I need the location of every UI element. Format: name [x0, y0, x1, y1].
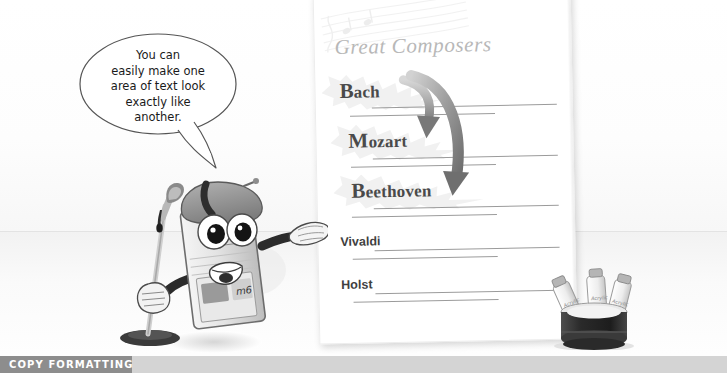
caption-label: COPY FORMATTING	[0, 359, 134, 370]
bubble-line: You can	[92, 48, 224, 64]
mascot-shadow	[166, 331, 262, 353]
rule-line	[351, 164, 496, 168]
mascot-figure-icon: m6	[118, 166, 328, 356]
pointing-hand-icon	[289, 222, 328, 244]
document-title: Great Composers	[334, 32, 491, 60]
rule-line	[375, 290, 560, 295]
plain-name-holst: Holst	[341, 277, 373, 292]
paint-supplies: Acrylic Acrylic Acrylic	[546, 258, 642, 350]
plain-name-vivaldi: Vivaldi	[340, 234, 380, 249]
mascot-left-hand-icon	[137, 283, 169, 313]
rule-line	[375, 247, 560, 252]
svg-text:m6: m6	[235, 284, 252, 297]
formatted-name-beethoven: Beethoven	[351, 177, 431, 204]
bubble-line: exactly like	[92, 95, 224, 111]
rule-line	[354, 299, 499, 303]
bubble-line: easily make one	[92, 64, 224, 80]
rule-line	[350, 113, 495, 117]
caption-block: COPY FORMATTING	[0, 356, 132, 373]
speech-bubble-text: You can easily make one area of text loo…	[92, 48, 224, 126]
bubble-line: area of text look	[92, 79, 224, 95]
floppy-disk-mascot: m6	[118, 166, 328, 356]
rule-line	[353, 256, 498, 260]
formatted-name-mozart: Mozart	[348, 128, 407, 154]
bubble-line: another.	[92, 110, 224, 126]
paint-tube-container-icon: Acrylic Acrylic Acrylic	[546, 258, 642, 350]
document-page: Great Composers Bach Mozart Beethoven	[313, 0, 578, 344]
illustration-scene: Great Composers Bach Mozart Beethoven	[0, 0, 727, 373]
rule-line	[352, 214, 497, 218]
formatted-name-bach: Bach	[339, 78, 380, 104]
